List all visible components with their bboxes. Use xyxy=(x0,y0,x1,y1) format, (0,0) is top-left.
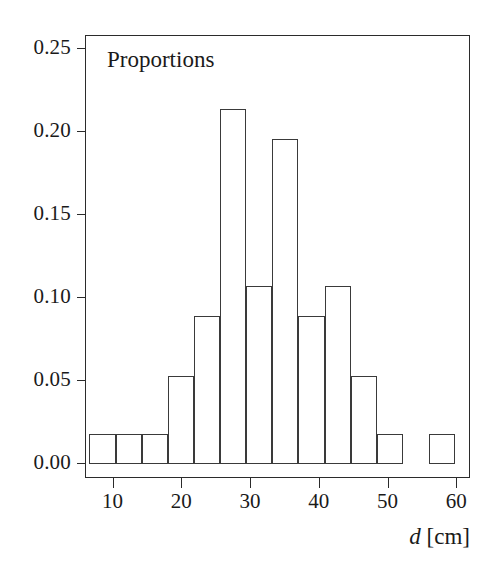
histogram-bar xyxy=(429,434,455,464)
y-axis-tick-label: 0.05 xyxy=(33,369,71,390)
y-axis-tick-label: 0.00 xyxy=(33,452,71,473)
histogram-bar xyxy=(89,434,115,464)
histogram-bar xyxy=(325,286,351,464)
y-axis-tick-label: 0.25 xyxy=(33,37,71,58)
plot-title: Proportions xyxy=(107,47,214,72)
x-axis-tick xyxy=(113,478,114,488)
x-axis-title-unit-text: [cm] xyxy=(427,524,470,549)
y-axis-tick-label: 0.10 xyxy=(33,286,71,307)
histogram-bar xyxy=(246,286,272,464)
x-axis-tick-label: 60 xyxy=(446,491,467,512)
x-axis-tick-label: 20 xyxy=(171,491,192,512)
y-axis-tick-label: 0.20 xyxy=(33,120,71,141)
x-axis-title: d [cm] xyxy=(409,524,470,549)
y-axis-tick-label: 0.15 xyxy=(33,203,71,224)
histogram-bar xyxy=(168,376,194,464)
histogram-bar xyxy=(298,316,324,464)
x-axis-title-variable: d xyxy=(409,524,421,549)
bars-layer xyxy=(86,36,469,477)
histogram-bar xyxy=(220,109,246,464)
histogram-bar xyxy=(194,316,220,464)
plot-frame xyxy=(85,35,470,478)
histogram-figure: 0.000.050.100.150.200.25 102030405060 Pr… xyxy=(0,0,498,576)
x-axis-tick xyxy=(388,478,389,488)
histogram-bar xyxy=(116,434,142,464)
x-axis-tick-label: 10 xyxy=(102,491,123,512)
x-axis-tick-label: 30 xyxy=(240,491,261,512)
x-axis-tick xyxy=(250,478,251,488)
histogram-bar xyxy=(142,434,168,464)
x-axis-tick-label: 50 xyxy=(377,491,398,512)
x-axis-tick-label: 40 xyxy=(308,491,329,512)
x-axis-tick xyxy=(319,478,320,488)
x-axis-tick xyxy=(181,478,182,488)
histogram-bar xyxy=(377,434,403,464)
histogram-bar xyxy=(272,139,298,464)
histogram-bar xyxy=(351,376,377,464)
x-axis-tick xyxy=(456,478,457,488)
